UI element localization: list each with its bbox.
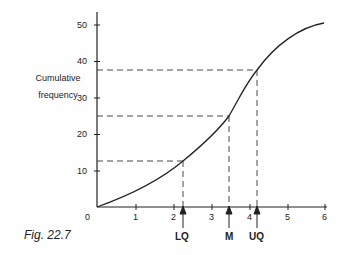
- quartile-guides: [97, 70, 257, 207]
- x-tick-6: 6: [322, 212, 327, 222]
- x-tick-2: 2: [171, 212, 176, 222]
- x-tick-5: 5: [285, 212, 290, 222]
- lq-label: LQ: [175, 231, 189, 242]
- x-tick-3: 3: [209, 212, 214, 222]
- y-axis-label-line1: Cumulative: [26, 70, 90, 87]
- y-tick-40: 40: [77, 56, 87, 66]
- y-tick-50: 50: [77, 20, 87, 30]
- x-tick-1: 1: [133, 212, 138, 222]
- uq-label: UQ: [249, 231, 264, 242]
- figure-caption: Fig. 22.7: [24, 228, 71, 242]
- y-axis-label-line2: frequency: [26, 87, 90, 104]
- cumulative-frequency-curve: [97, 23, 324, 207]
- x-tick-4: 4: [247, 212, 252, 222]
- y-axis-label: Cumulative frequency: [26, 70, 90, 104]
- y-tick-10: 10: [77, 166, 87, 176]
- median-label: M: [225, 231, 233, 242]
- y-tick-20: 20: [77, 129, 87, 139]
- x-tick-0: 0: [85, 212, 90, 222]
